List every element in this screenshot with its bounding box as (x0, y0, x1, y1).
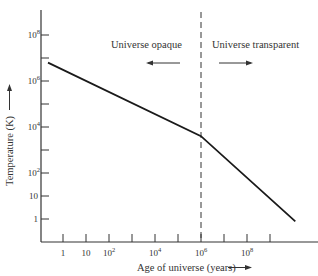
arrow-left-icon (146, 61, 180, 66)
y-tick-label: 10 (29, 191, 39, 201)
y-tick-label: 1 (34, 214, 39, 224)
y-tick-label: 108 (28, 28, 40, 40)
x-tick-label: 1 (61, 248, 66, 258)
x-axis-ticks: 110102104106108 (61, 234, 270, 258)
x-tick-label: 106 (195, 246, 208, 258)
arrow-right-icon (219, 61, 253, 66)
y-tick-label: 104 (28, 120, 41, 132)
temperature-curve (48, 63, 295, 222)
y-axis-title: Temperature (K) (4, 115, 16, 186)
temperature-vs-age-chart: 110102104106108 110102104106108 Universe… (0, 0, 318, 276)
x-tick-label: 108 (241, 246, 253, 258)
x-axis-title: Age of universe (years) (137, 262, 236, 274)
y-tick-label: 106 (28, 74, 41, 86)
y-axis-arrow-icon (7, 84, 12, 110)
y-tick-label: 102 (28, 166, 40, 178)
x-tick-label: 102 (103, 246, 115, 258)
annotation-universe-transparent: Universe transparent (212, 39, 299, 50)
x-tick-label: 10 (82, 248, 92, 258)
x-tick-label: 104 (149, 246, 162, 258)
y-axis-ticks: 110102104106108 (28, 28, 49, 224)
annotation-universe-opaque: Universe opaque (111, 39, 182, 50)
